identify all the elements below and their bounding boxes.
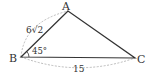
vertex-label-c: C [137,53,145,66]
triangle-diagram: A B C 6√2 15 45° [0,0,150,74]
side-label-bc: 15 [73,64,85,74]
angle-b-arc [27,51,29,57]
angle-label-b: 45° [32,46,47,56]
side-label-ab: 6√2 [26,25,43,35]
vertex-label-a: A [61,0,71,13]
vertex-label-b: B [9,52,17,65]
triangle-svg: A B C 6√2 15 45° [0,0,150,74]
